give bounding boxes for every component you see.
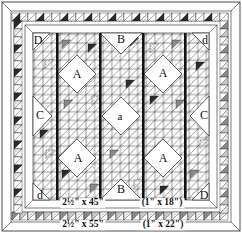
label-A-bottom-right: A — [159, 152, 168, 164]
sashing-bar-4 — [184, 33, 187, 200]
label-a-center: a — [118, 111, 123, 122]
sashing-bar-2 — [99, 33, 102, 200]
label-A-top-right: A — [159, 67, 168, 79]
label-A-top-left: A — [73, 68, 82, 80]
label-d-bottom-left: d — [37, 189, 43, 201]
label-d-top-right: d — [202, 34, 208, 46]
label-B-bottom: B — [117, 183, 125, 195]
label-D-top-left: D — [34, 34, 43, 46]
label-C-right: C — [200, 109, 208, 121]
label-C-left: C — [36, 109, 44, 121]
label-B-top: B — [117, 33, 125, 45]
dimension-outer-sashing: (1" x 22") — [141, 220, 186, 230]
label-D-bottom-right: D — [200, 189, 209, 201]
label-A-bottom-left: A — [74, 152, 83, 164]
sashing-bar-1 — [56, 33, 59, 200]
dimension-inner-sashing: (1" x 18") — [140, 198, 185, 208]
sashing-bar-3 — [142, 33, 145, 200]
dimension-inner-border: 2½" x 45" — [60, 198, 105, 208]
dimension-outer-border: 2½" x 55" — [60, 220, 105, 230]
